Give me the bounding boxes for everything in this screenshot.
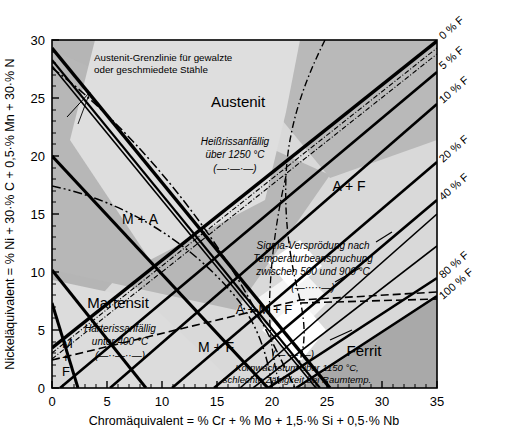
phase-label-a-plus-f: A + F: [332, 178, 365, 194]
phase-label-martensit: Martensit: [87, 294, 150, 311]
x-tick-label-20: 20: [265, 394, 279, 409]
annotation-text-haerteriss-line3: (—··—··—): [95, 350, 145, 361]
schaeffler-diagram-figure: 0 5 10 15 20 25 30 35 Chromäquivalent = …: [0, 0, 511, 444]
annotation-text-austenit-line1: Austenit-Grenzlinie für gewalzte: [94, 52, 233, 63]
x-axis-title: Chromäquivalent = % Cr + % Mo + 1,5·% Si…: [89, 414, 400, 428]
corner-label-plus: +: [62, 350, 70, 365]
x-tick-label-35: 35: [430, 394, 444, 409]
diagram-svg: 0 5 10 15 20 25 30 35 Chromäquivalent = …: [0, 0, 511, 444]
annotation-text-heissriss-line3: (—·—·—): [213, 163, 256, 174]
annotation-text-haerteriss-line2: unter 400 °C: [92, 336, 149, 347]
y-tick-label-5: 5: [38, 323, 45, 338]
corner-label-f: F: [62, 364, 70, 379]
x-tick-label-0: 0: [48, 394, 55, 409]
annotation-text-haerteriss-line1: Härterissanfällig: [84, 323, 156, 334]
x-tick-label-10: 10: [155, 394, 169, 409]
corner-label-m: M: [62, 336, 73, 351]
phase-label-m-plus-f: M + F: [198, 339, 234, 355]
annotation-text-heissriss-line1: Heißrissanfällig: [201, 136, 270, 147]
y-axis-title: Nickeläquivalent = % Ni + 30·% C + 0,5·%…: [3, 58, 17, 369]
annotation-text-kornwachstum-line1: (— — —): [272, 349, 314, 360]
annotation-text-sigma-line1: Sigma-Versprödung nach: [256, 240, 369, 251]
annotation-text-sigma-line4: (—·····—): [291, 282, 334, 293]
phase-label-a-m-f: A + M + F: [236, 302, 292, 317]
annotation-text-austenit-line2: oder geschmiedete Stähle: [94, 64, 208, 75]
y-tick-label-0: 0: [38, 381, 45, 396]
x-tick-label-25: 25: [320, 394, 334, 409]
annotation-text-heissriss-line2: über 1250 °C: [205, 149, 265, 160]
y-tick-label-15: 15: [31, 207, 45, 222]
phase-label-ferrit: Ferrit: [347, 342, 383, 359]
annotation-text-sigma-line3: zwischen 500 und 900 °C: [255, 266, 370, 277]
y-tick-label-25: 25: [31, 91, 45, 106]
annotation-text-sigma-line2: Temperaturbeanspruchung: [253, 253, 373, 264]
annotation-text-kornwachstum-line2: Kornwachstum über 1150 °C,: [235, 362, 359, 373]
y-tick-label-20: 20: [31, 149, 45, 164]
phase-label-m-plus-a: M + A: [122, 211, 159, 227]
x-tick-label-5: 5: [103, 394, 110, 409]
x-tick-label-30: 30: [375, 394, 389, 409]
annotation-text-kornwachstum-line3: schlechte Zähigkeit bei Raumtemp.: [223, 374, 371, 385]
phase-label-austenit: Austenit: [211, 93, 266, 110]
y-tick-label-10: 10: [31, 265, 45, 280]
y-tick-label-30: 30: [31, 33, 45, 48]
x-tick-label-15: 15: [210, 394, 224, 409]
